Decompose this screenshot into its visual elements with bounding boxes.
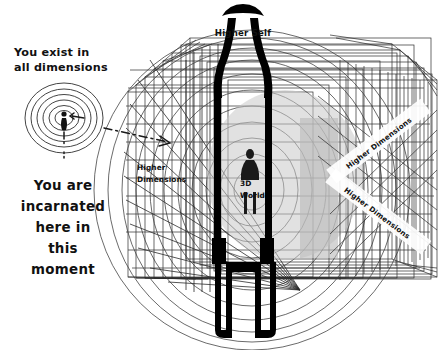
label-3d-world-line1: 3D: [240, 179, 251, 188]
caption-exist-line2: all dimensions: [14, 61, 108, 74]
gray-panel: [300, 118, 338, 258]
label-higher-self: Higher Self: [215, 28, 271, 38]
caption-incarnated-line1: You are: [33, 178, 93, 193]
label-higher-dimensions-left-line1: Higher: [137, 163, 166, 172]
caption-incarnated-line4: this: [48, 241, 78, 256]
caption-incarnated-line2: incarnated: [21, 199, 105, 214]
label-3d-world-line2: World: [240, 191, 265, 200]
diagram-svg: You exist in all dimensions You are inca…: [0, 0, 441, 350]
caption-incarnated-line5: moment: [31, 262, 95, 277]
diagram-canvas: You exist in all dimensions You are inca…: [0, 0, 441, 350]
caption-exist-line1: You exist in: [13, 46, 89, 59]
caption-incarnated-line3: here in: [35, 220, 90, 235]
label-higher-dimensions-left-line2: Dimensions: [137, 175, 187, 184]
